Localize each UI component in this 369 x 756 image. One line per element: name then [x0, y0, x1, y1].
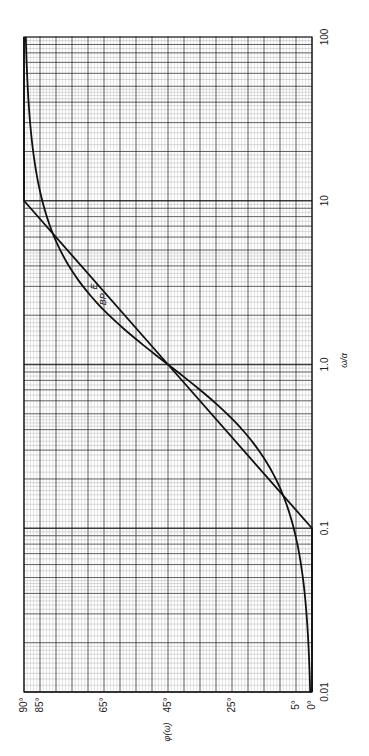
freq-tick-label: 1.0 [319, 357, 330, 371]
x-axis-label: ω/α [339, 352, 349, 368]
phase-tick-label: 0° [306, 700, 317, 710]
freq-tick-label: 0.01 [319, 682, 330, 702]
phase-chart: 0°5°25°45°65°85°90°0.010.11.010100φ(ω)ω/… [0, 0, 369, 756]
phase-tick-label: 25° [226, 697, 237, 712]
freq-tick-label: 10 [319, 195, 330, 207]
phase-tick-label: 90° [18, 697, 29, 712]
phase-tick-label: 65° [98, 697, 109, 712]
freq-tick-label: 100 [319, 28, 330, 45]
phase-tick-label: 85° [34, 697, 45, 712]
series-label-bp: BP [98, 293, 108, 305]
phase-tick-label: 45° [162, 697, 173, 712]
series-label-e: E [89, 282, 99, 289]
y-axis-label: φ(ω) [162, 723, 172, 742]
phase-tick-label: 5° [290, 700, 301, 710]
freq-tick-label: 0.1 [319, 521, 330, 535]
